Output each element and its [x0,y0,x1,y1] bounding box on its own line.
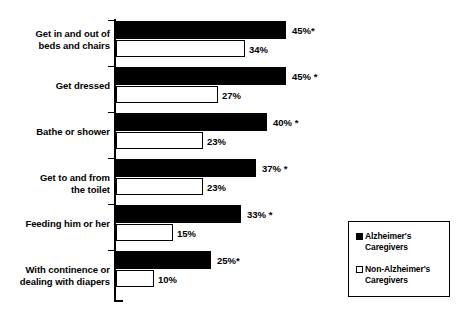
bar-non-alzheimers-2 [116,132,203,149]
plot-area: Get in and out of beds and chairs 45%* 3… [0,14,460,304]
category-label-5-line2: dealing with diapers [2,276,110,288]
bar-value-alzheimers-5: 25%* [217,255,240,266]
legend-label-non-alzheimers-line2: Caregivers [365,275,408,285]
axis-tick [108,250,115,251]
category-label-4: Feeding him or her [2,218,110,230]
category-label-0: Get in and out of beds and chairs [2,28,110,51]
legend-label-non-alzheimers-line1: Non-Alzheimer's [365,264,430,274]
filled-square-icon [356,233,363,240]
category-label-3-line1: Get to and from [2,172,110,184]
axis-tick [108,112,115,113]
hollow-square-icon [356,266,363,273]
bar-value-non-alzheimers-3: 23% [207,182,226,193]
category-label-1: Get dressed [2,80,110,92]
legend-label-alzheimers-line2: Caregivers [365,242,408,252]
category-label-1-line1: Get dressed [2,80,110,92]
bar-non-alzheimers-3 [116,178,203,195]
category-label-0-line1: Get in and out of [2,28,110,40]
axis-tick [108,204,115,205]
bar-value-alzheimers-1: 45% * [292,71,317,82]
axis-tick [108,20,115,21]
bar-non-alzheimers-0 [116,40,245,57]
bar-value-non-alzheimers-1: 27% [222,90,241,101]
category-label-4-line1: Feeding him or her [2,218,110,230]
bar-chart: Get in and out of beds and chairs 45%* 3… [0,0,460,310]
bar-alzheimers-1 [116,67,286,85]
chart-legend: Alzheimer's Caregivers Non-Alzheimer's C… [348,221,450,297]
bar-value-non-alzheimers-0: 34% [249,44,268,55]
bar-alzheimers-0 [116,21,286,39]
bar-value-alzheimers-4: 33% * [247,209,272,220]
bar-value-non-alzheimers-5: 10% [158,274,177,285]
axis-tick [108,66,115,67]
axis-foot [114,300,123,302]
bar-alzheimers-3 [116,159,256,177]
bar-value-alzheimers-2: 40% * [273,117,298,128]
category-label-0-line2: beds and chairs [2,40,110,52]
bar-non-alzheimers-5 [116,270,154,287]
category-label-5-line1: With continence or [2,264,110,276]
bar-value-alzheimers-0: 45%* [292,25,315,36]
category-label-3: Get to and from the toilet [2,172,110,195]
bar-alzheimers-5 [116,251,211,269]
category-label-2-line1: Bathe or shower [2,126,110,138]
bar-value-alzheimers-3: 37% * [262,163,287,174]
bar-value-non-alzheimers-2: 23% [207,136,226,147]
bar-non-alzheimers-4 [116,224,173,241]
category-label-5: With continence or dealing with diapers [2,264,110,287]
bar-value-non-alzheimers-4: 15% [177,228,196,239]
category-label-2: Bathe or shower [2,126,110,138]
bar-non-alzheimers-1 [116,86,218,103]
category-label-3-line2: the toilet [2,184,110,196]
axis-tick [108,158,115,159]
chart-title [60,0,390,5]
legend-label-non-alzheimers: Non-Alzheimer's Caregivers [365,264,451,285]
legend-label-alzheimers-line1: Alzheimer's [365,231,411,241]
bar-alzheimers-4 [116,205,241,223]
legend-label-alzheimers: Alzheimer's Caregivers [365,231,451,252]
bar-alzheimers-2 [116,113,267,131]
